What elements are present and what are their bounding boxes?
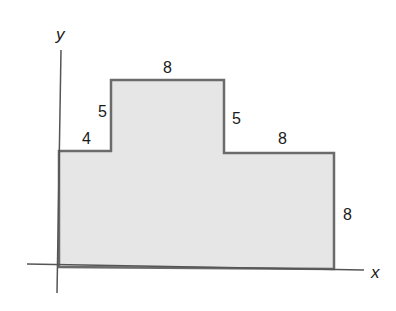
label-right-height: 8 — [343, 206, 352, 223]
label-right-step-drop: 5 — [232, 110, 241, 127]
label-top-width: 8 — [163, 59, 172, 76]
label-right-shelf-width: 8 — [278, 130, 287, 147]
label-left-step-width: 4 — [82, 130, 91, 147]
composite-shape-diagram: y x 4 5 8 5 8 8 — [0, 0, 396, 311]
x-axis-label: x — [370, 263, 380, 282]
label-left-step-rise: 5 — [98, 103, 107, 120]
y-axis-label: y — [55, 25, 66, 44]
